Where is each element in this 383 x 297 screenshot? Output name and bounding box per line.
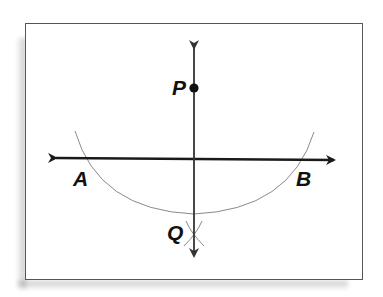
label-b: B bbox=[296, 167, 311, 190]
line-ab bbox=[56, 158, 334, 160]
label-p: P bbox=[172, 76, 187, 99]
construction-diagram: P Q A B bbox=[0, 0, 383, 297]
point-p bbox=[189, 83, 198, 92]
label-a: A bbox=[72, 167, 88, 190]
label-q: Q bbox=[167, 221, 183, 244]
